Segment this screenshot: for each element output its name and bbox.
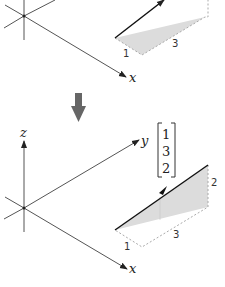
x-axis-label: x xyxy=(129,261,137,276)
vector-component-3: 2 xyxy=(162,161,170,176)
top-edge-label-1: 1 xyxy=(123,48,129,59)
bottom-edge-label-2: 2 xyxy=(211,177,217,188)
bottom-edge-label-3: 3 xyxy=(173,229,179,240)
top-x-label: x xyxy=(129,70,137,85)
down-arrow-icon xyxy=(71,93,86,122)
column-vector: 1 3 2 xyxy=(158,123,175,177)
z-axis-label: z xyxy=(19,125,27,140)
vector-component-1: 1 xyxy=(162,127,170,142)
bottom-axes xyxy=(4,140,139,269)
bottom-edge-label-1: 1 xyxy=(124,241,130,252)
vector-diagram: x 1 3 z y x 1 3 2 xyxy=(0,0,225,287)
bottom-origin xyxy=(23,207,26,210)
top-diagram: x 1 3 xyxy=(4,0,208,85)
top-axes xyxy=(4,0,126,77)
y-axis-label: y xyxy=(140,133,149,148)
top-origin xyxy=(23,15,26,18)
top-edge-label-3: 3 xyxy=(172,38,178,49)
bottom-diagram: z y x 1 3 2 1 3 2 xyxy=(4,123,217,276)
vector-component-2: 3 xyxy=(162,144,170,159)
